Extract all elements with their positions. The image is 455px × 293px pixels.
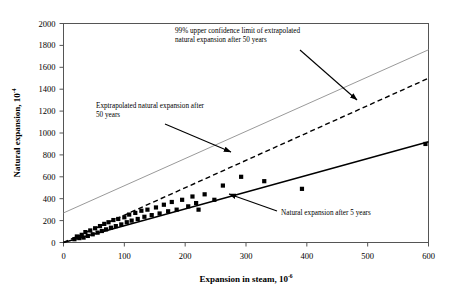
plot-area-border (64, 24, 429, 243)
data-point (130, 219, 134, 223)
data-point (114, 224, 118, 228)
data-point (239, 175, 243, 179)
y-tick-label-1200: 1200 (39, 106, 56, 116)
data-point (95, 231, 99, 235)
x-tick-label-300: 300 (240, 251, 253, 261)
x-tick-label-500: 500 (361, 251, 374, 261)
scatter-plot-canvas: 0200400600800100012001400160018002000 01… (0, 0, 455, 293)
data-point (86, 234, 90, 238)
data-point (81, 235, 85, 239)
y-tick-label-0: 0 (51, 238, 55, 248)
trend-line-2 (64, 142, 429, 243)
data-point (145, 208, 149, 212)
data-point (221, 183, 225, 187)
data-point (150, 213, 154, 217)
data-point (93, 226, 97, 230)
y-axis-title: Natural expansion, 10-4 (11, 88, 22, 177)
x-tick-label-100: 100 (118, 251, 131, 261)
y-tick-label-400: 400 (43, 194, 56, 204)
y-tick-label-600: 600 (43, 172, 56, 182)
data-point (88, 228, 92, 232)
data-point (212, 198, 216, 202)
data-point (190, 194, 194, 198)
annotation-upper-confidence: 99% upper confidence limit of extrapolat… (175, 27, 301, 44)
data-point (142, 215, 146, 219)
data-point (102, 222, 106, 226)
data-point (154, 205, 158, 209)
annotation-natural-expansion-5-years: Natural expansion after 5 years (281, 209, 371, 217)
annotation-extrapolated-50-years: Exptrapolated natural expansion after50 … (96, 102, 205, 119)
data-point (111, 218, 115, 222)
data-point (98, 224, 102, 228)
annotation-arrow-upper-confidence (300, 50, 357, 100)
annotation-arrow-natural-expansion-5-years (229, 194, 277, 211)
y-tick-label-800: 800 (43, 150, 56, 160)
data-point (83, 230, 87, 234)
y-tick-label-1600: 1600 (39, 62, 56, 72)
data-point (194, 201, 198, 205)
chart-figure: 0200400600800100012001400160018002000 01… (0, 0, 455, 293)
data-point (175, 208, 179, 212)
trend-line-0 (64, 50, 429, 213)
y-tick-label-1800: 1800 (39, 40, 56, 50)
x-axis-title: Expansion in steam, 10-6 (199, 273, 292, 284)
data-point (136, 217, 140, 221)
data-point (125, 220, 129, 224)
y-tick-label-2000: 2000 (39, 19, 56, 29)
trend-lines (64, 50, 429, 243)
y-tick-label-1000: 1000 (39, 128, 56, 138)
data-point (158, 211, 162, 215)
data-point (119, 222, 123, 226)
data-point (162, 203, 166, 207)
annotation-arrow-extrapolated-50-years (165, 124, 231, 152)
data-point (106, 220, 110, 224)
data-point (186, 204, 190, 208)
data-point (170, 200, 174, 204)
x-tick-label-600: 600 (422, 251, 435, 261)
data-point (180, 198, 184, 202)
data-point (300, 187, 304, 191)
data-point (139, 209, 143, 213)
data-point (116, 217, 120, 221)
data-point (203, 192, 207, 196)
plot-frame (64, 24, 429, 243)
data-point (104, 227, 108, 231)
y-axis-ticks: 0200400600800100012001400160018002000 (39, 19, 64, 248)
data-point (133, 211, 137, 215)
data-point (166, 209, 170, 213)
chart-annotations: 99% upper confidence limit of extrapolat… (96, 27, 371, 217)
data-point (262, 179, 266, 183)
x-axis-ticks: 0100200300400500600 (61, 243, 435, 261)
data-point (100, 229, 104, 233)
data-point (122, 215, 126, 219)
data-point (91, 232, 95, 236)
x-tick-label-200: 200 (179, 251, 192, 261)
data-point (423, 142, 427, 146)
data-point (196, 208, 200, 212)
y-tick-label-200: 200 (43, 216, 56, 226)
x-tick-label-0: 0 (61, 251, 65, 261)
data-point (109, 226, 113, 230)
y-tick-label-1400: 1400 (39, 84, 56, 94)
x-tick-label-400: 400 (300, 251, 313, 261)
data-point (127, 212, 131, 216)
